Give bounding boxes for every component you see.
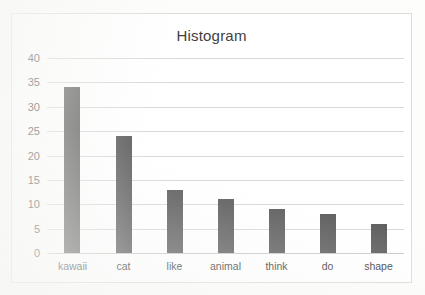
y-axis-tick-label: 25	[28, 125, 40, 137]
y-axis-tick-label: 0	[34, 247, 40, 259]
bar	[269, 209, 285, 253]
bar	[371, 224, 387, 253]
y-axis-tick-label: 10	[28, 198, 40, 210]
x-axis-tick-label: kawaii	[58, 260, 87, 272]
chart-frame: Histogram 0510152025303540 kawaiicatlike…	[11, 13, 412, 283]
y-axis-tick-label: 5	[34, 223, 40, 235]
y-axis-tick-label: 15	[28, 174, 40, 186]
y-axis-tick-label: 35	[28, 76, 40, 88]
y-axis-tick-label: 20	[28, 150, 40, 162]
bar	[218, 199, 234, 253]
x-axis-tick-label: animal	[210, 260, 241, 272]
x-axis-tick-label: think	[265, 260, 287, 272]
bar	[167, 190, 183, 253]
x-axis-tick-label: like	[167, 260, 183, 272]
plot-area: 0510152025303540 kawaiicatlikeanimalthin…	[47, 58, 404, 253]
bar-series	[47, 58, 404, 253]
y-axis-tick-label: 30	[28, 101, 40, 113]
chart-title: Histogram	[12, 27, 411, 44]
y-axis-tick-label: 40	[28, 52, 40, 64]
bar	[64, 87, 80, 253]
x-axis-tick-label: cat	[116, 260, 130, 272]
bar	[116, 136, 132, 253]
x-axis-tick-label: shape	[364, 260, 393, 272]
x-axis-tick-label: do	[322, 260, 334, 272]
gridline	[47, 253, 404, 254]
bar	[320, 214, 336, 253]
